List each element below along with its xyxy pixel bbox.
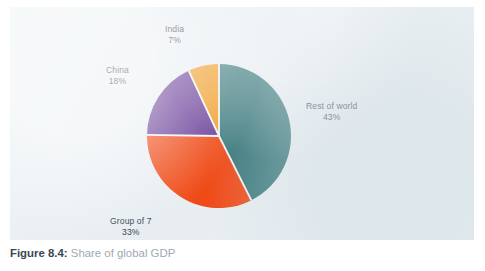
pie-label-rest-of-world-pct: 43%: [306, 112, 357, 123]
pie-chart-svg: [10, 7, 474, 240]
figure-caption-separator: :: [64, 247, 68, 259]
pie-label-rest-of-world-name: Rest of world: [306, 101, 357, 111]
figure-page: Rest of world 43% China 18% India 7% Gro…: [0, 0, 485, 271]
pie-label-india-name: India: [165, 24, 184, 34]
pie-chart: [10, 7, 474, 240]
figure-caption: Figure 8.4: Share of global GDP: [10, 246, 470, 260]
pie-label-india: India 7%: [165, 24, 184, 45]
pie-label-china-pct: 18%: [106, 76, 129, 87]
pie-label-group-of-7-name: Group of 7: [110, 216, 152, 226]
pie-label-group-of-7: Group of 7 33%: [110, 216, 152, 237]
pie-label-rest-of-world: Rest of world 43%: [306, 101, 357, 122]
pie-label-india-pct: 7%: [165, 35, 184, 46]
pie-label-group-of-7-pct: 33%: [110, 227, 152, 238]
figure-title: Share of global GDP: [71, 247, 175, 259]
chart-panel: Rest of world 43% China 18% India 7% Gro…: [10, 7, 474, 240]
figure-number: Figure 8.4: [10, 247, 64, 259]
pie-label-china-name: China: [106, 65, 129, 75]
pie-label-china: China 18%: [106, 65, 129, 86]
